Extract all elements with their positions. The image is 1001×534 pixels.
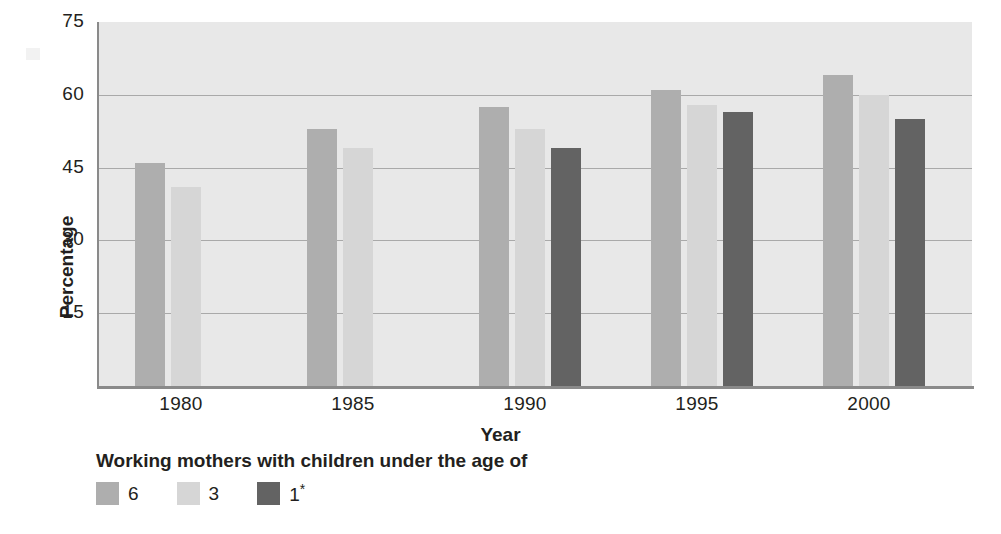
chart-root: Percentage 7560453015 198019851990199520… [0, 0, 1001, 534]
legend-item: 3 [177, 482, 220, 505]
bar-group-1985 [307, 22, 379, 386]
bar-2000-1 [895, 119, 925, 386]
y-tick-60: 60 [32, 83, 84, 105]
bar-1990-1 [551, 148, 581, 386]
legend-label: 1* [289, 481, 305, 506]
bar-1985-3 [343, 148, 373, 386]
y-tick-30: 30 [32, 228, 84, 250]
bar-1995-6 [651, 90, 681, 386]
bar-1995-3 [687, 105, 717, 386]
bar-1990-6 [479, 107, 509, 386]
plot-area [97, 22, 972, 386]
bar-group-1995 [651, 22, 759, 386]
legend-swatch [257, 482, 280, 505]
x-axis-line [97, 386, 974, 389]
y-tick-75: 75 [32, 10, 84, 32]
y-tick-45: 45 [32, 156, 84, 178]
x-tick-2000: 2000 [809, 393, 929, 415]
bar-1980-6 [135, 163, 165, 386]
legend-swatch [96, 482, 119, 505]
x-axis-title: Year [0, 424, 1001, 446]
bar-1990-3 [515, 129, 545, 386]
legend-item: 6 [96, 482, 139, 505]
x-tick-1980: 1980 [121, 393, 241, 415]
legend-label: 6 [128, 483, 139, 505]
paper-artifact [26, 48, 40, 60]
bar-group-2000 [823, 22, 931, 386]
bar-group-1990 [479, 22, 587, 386]
x-tick-1985: 1985 [293, 393, 413, 415]
bar-2000-6 [823, 75, 853, 386]
bar-1980-3 [171, 187, 201, 386]
legend-title: Working mothers with children under the … [96, 450, 527, 472]
bar-2000-3 [859, 95, 889, 386]
legend-items: 631* [96, 481, 527, 506]
bar-group-1980 [135, 22, 207, 386]
x-tick-1995: 1995 [637, 393, 757, 415]
legend-item: 1* [257, 481, 305, 506]
legend-label: 3 [209, 483, 220, 505]
x-tick-1990: 1990 [465, 393, 585, 415]
legend: Working mothers with children under the … [96, 450, 527, 506]
bar-1985-6 [307, 129, 337, 386]
bar-1995-1 [723, 112, 753, 386]
legend-swatch [177, 482, 200, 505]
y-tick-15: 15 [32, 301, 84, 323]
